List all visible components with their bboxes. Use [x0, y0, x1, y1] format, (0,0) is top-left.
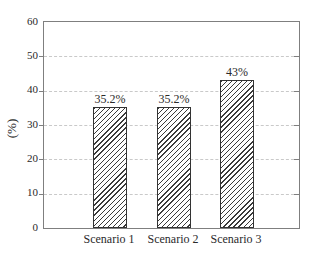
y-tick-label: 10	[0, 186, 38, 199]
gridline	[44, 56, 299, 57]
plot-area: 35.2%35.2%43%	[43, 21, 300, 229]
bar-scenario-1	[93, 107, 127, 228]
y-tick-mark-right	[294, 159, 299, 160]
x-tick-label: Scenario 1	[84, 233, 135, 245]
y-tick-label: 60	[0, 15, 38, 28]
y-tick-mark-left	[39, 159, 44, 160]
y-tick-mark-right	[294, 56, 299, 57]
y-tick-label: 30	[0, 118, 38, 131]
bar-value-label: 35.2%	[80, 93, 140, 105]
y-tick-label: 40	[0, 83, 38, 96]
y-tick-mark-left	[39, 194, 44, 195]
y-tick-mark-right	[294, 194, 299, 195]
bar-value-label: 35.2%	[144, 93, 204, 105]
bar-scenario-2	[157, 107, 191, 228]
x-tick-label: Scenario 3	[211, 233, 262, 245]
bar-value-label: 43%	[207, 66, 267, 78]
y-tick-mark-right	[294, 91, 299, 92]
y-tick-mark-left	[39, 91, 44, 92]
bar-scenario-3	[220, 80, 254, 228]
y-tick-mark-left	[39, 56, 44, 57]
x-tick-label: Scenario 2	[148, 233, 199, 245]
y-tick-mark-left	[39, 125, 44, 126]
y-tick-label: 50	[0, 49, 38, 62]
y-tick-mark-right	[294, 125, 299, 126]
y-tick-label: 20	[0, 152, 38, 165]
bar-chart: (%) 35.2%35.2%43% 0102030405060 Scenario…	[0, 0, 314, 253]
y-tick-label: 0	[0, 221, 38, 234]
